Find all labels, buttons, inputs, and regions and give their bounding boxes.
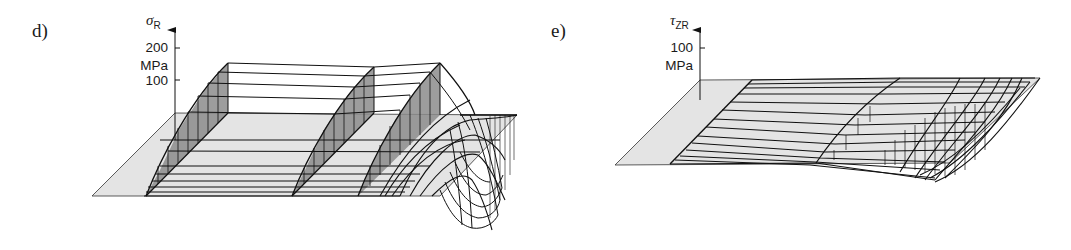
figure-canvas [0, 0, 1071, 250]
panel-e-plot [615, 30, 1040, 182]
panel-d-plot [92, 30, 517, 230]
